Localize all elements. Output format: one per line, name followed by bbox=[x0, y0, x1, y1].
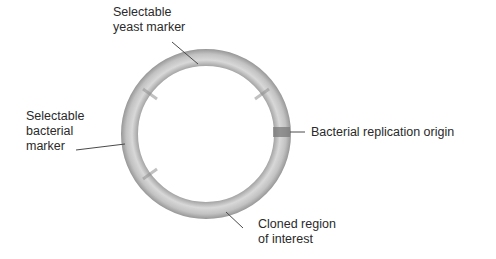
label-line: Bacterial replication origin bbox=[311, 125, 454, 140]
replication-origin-band bbox=[273, 127, 290, 137]
label-replication-origin: Bacterial replication origin bbox=[311, 125, 454, 140]
label-line: Selectable bbox=[26, 109, 84, 124]
label-cloned-region: Cloned region of interest bbox=[258, 217, 336, 247]
label-yeast-marker: Selectable yeast marker bbox=[113, 5, 185, 35]
label-line: yeast marker bbox=[113, 20, 185, 35]
label-bacterial-marker: Selectable bacterial marker bbox=[26, 109, 84, 154]
label-line: marker bbox=[26, 139, 84, 154]
plasmid-ring bbox=[130, 58, 283, 211]
segment-boundaries bbox=[143, 89, 269, 179]
label-line: of interest bbox=[258, 232, 336, 247]
label-line: bacterial bbox=[26, 124, 84, 139]
label-line: Selectable bbox=[113, 5, 185, 20]
leader-cloned-region bbox=[226, 212, 243, 228]
label-line: Cloned region bbox=[258, 217, 336, 232]
